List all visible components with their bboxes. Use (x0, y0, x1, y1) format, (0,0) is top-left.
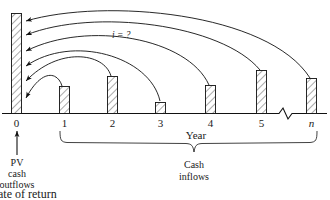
discount-arrow-year-1 (26, 75, 62, 98)
bar-year-n (307, 79, 317, 114)
inflow-label-line2: inflows (179, 171, 209, 182)
bar-group (12, 14, 317, 114)
bar-year-0 (12, 14, 22, 114)
tick-label-group: 0 1 2 3 4 5 n (14, 117, 315, 129)
pv-outflow-annotation: PV cash outflows (0, 131, 35, 190)
discount-arrow-year-n (26, 11, 310, 78)
inflow-label-line1: Cash (184, 159, 204, 170)
bar-year-2 (108, 77, 118, 114)
interest-rate-label: i = ? (112, 30, 131, 40)
tick-label-1: 1 (62, 117, 68, 129)
bar-year-5 (257, 71, 267, 114)
tick-label-2: 2 (110, 117, 116, 129)
tick-label-5: 5 (259, 117, 265, 129)
tick-label-n: n (309, 117, 315, 129)
rate-of-return-caption: ate of return (0, 187, 57, 200)
discount-arrow-year-5 (26, 22, 260, 70)
tick-label-3: 3 (158, 117, 164, 129)
cash-flow-diagram: i = ? 0 1 2 3 4 5 n Year PV cash outflow… (0, 0, 330, 200)
pv-label-line2: cash (8, 168, 26, 179)
diagram-canvas: i = ? 0 1 2 3 4 5 n Year PV cash outflow… (0, 0, 330, 200)
bar-year-1 (60, 87, 70, 114)
axis-title-year: Year (186, 129, 207, 141)
tick-label-0: 0 (14, 117, 20, 129)
pv-label-line1: PV (11, 157, 25, 168)
bar-year-3 (156, 103, 166, 114)
bar-year-4 (206, 86, 216, 114)
tick-label-4: 4 (208, 117, 214, 129)
discount-arrow-year-2 (26, 57, 111, 81)
